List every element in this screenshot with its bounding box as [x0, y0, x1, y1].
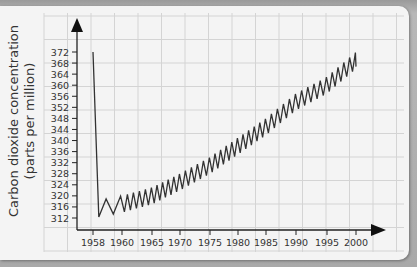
x-tick-label: 1990	[284, 237, 308, 248]
co2-series-line	[93, 52, 356, 217]
x-tick-label: 2000	[344, 237, 368, 248]
y-tick-label: 368	[51, 58, 69, 69]
y-tick-label: 312	[51, 213, 69, 224]
grid	[44, 13, 404, 252]
x-axis-arrow-icon	[371, 224, 386, 236]
x-tick-label: 1975	[198, 237, 222, 248]
y-tick-label: 360	[51, 80, 69, 91]
y-tick-label: 352	[51, 102, 69, 113]
y-tick-label: 320	[51, 190, 69, 201]
x-tick-label: 1965	[140, 237, 164, 248]
y-tick-label: 348	[51, 113, 69, 124]
y-tick-label: 332	[51, 157, 69, 168]
y-tick-label: 372	[51, 47, 69, 58]
y-axis-arrow-icon	[71, 18, 83, 32]
y-tick-label: 344	[51, 124, 69, 135]
y-axis-ticks: 3123163203243283323363403443483523563603…	[51, 47, 77, 224]
x-tick-label: 1970	[168, 237, 192, 248]
y-tick-label: 340	[51, 135, 69, 146]
y-tick-label: 364	[51, 69, 69, 80]
y-tick-label: 328	[51, 168, 69, 179]
co2-line-chart: 3123163203243283323363403443483523563603…	[0, 0, 417, 267]
y-tick-label: 356	[51, 91, 69, 102]
x-tick-label: 1985	[254, 237, 278, 248]
x-axis-ticks: 1958196019651970197519801985199019952000	[81, 230, 368, 248]
x-tick-label: 1980	[226, 237, 250, 248]
x-tick-label: 1995	[315, 237, 339, 248]
y-tick-label: 316	[51, 201, 69, 212]
x-tick-label: 1960	[110, 237, 134, 248]
y-tick-label: 324	[51, 179, 69, 190]
y-tick-label: 336	[51, 146, 69, 157]
x-tick-label: 1958	[81, 237, 105, 248]
